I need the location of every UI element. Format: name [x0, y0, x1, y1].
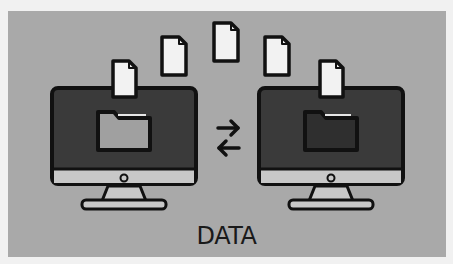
document-icons — [113, 23, 343, 97]
exchange-arrows-icon — [218, 121, 239, 155]
caption-label: DATA — [0, 222, 453, 250]
document-icon — [320, 61, 343, 97]
document-icon — [113, 61, 136, 97]
source-computer-icon — [52, 88, 196, 209]
folder-icon — [98, 112, 150, 150]
document-icon — [214, 23, 238, 61]
document-icon — [265, 37, 289, 75]
folder-icon — [305, 112, 357, 150]
target-computer-icon — [259, 88, 403, 209]
document-icon — [162, 37, 186, 75]
